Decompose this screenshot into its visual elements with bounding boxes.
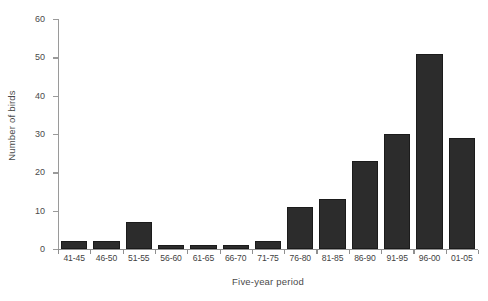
bar [255,241,281,249]
bar [449,138,475,249]
x-axis-tick-label: 51-55 [128,253,149,263]
y-axis-line [58,19,59,249]
x-axis-line [58,249,478,250]
bar [158,245,184,249]
x-axis-tick-labels: 41-4546-5051-5556-6061-6566-7071-7576-80… [58,253,478,267]
y-axis-title: Number of birds [0,0,22,250]
y-axis-tick-label: 50 [35,52,45,62]
bar [223,245,249,249]
x-axis-title: Five-year period [58,276,478,287]
y-axis-tick-label: 10 [35,206,45,216]
bar [319,199,345,249]
x-axis-tick-label: 41-45 [63,253,84,263]
x-axis-tick-label: 46-50 [96,253,117,263]
y-axis-tick-label: 60 [35,14,45,24]
bar [126,222,152,249]
y-axis-tick-mark [53,211,58,212]
bar [93,241,119,249]
x-axis-tick-label: 56-60 [160,253,181,263]
plot-area [58,19,478,249]
bar [287,207,313,249]
x-axis-tick-label: 66-70 [225,253,246,263]
bar [352,161,378,249]
y-axis-tick-label: 0 [40,244,45,254]
x-axis-tick-mark [478,250,479,254]
y-axis-tick-labels: 0102030405060 [22,0,48,260]
x-axis-tick-label: 71-75 [257,253,278,263]
y-axis-tick-mark [53,19,58,20]
x-axis-tick-label: 61-65 [193,253,214,263]
bar [61,241,87,249]
bar [190,245,216,249]
bar [384,134,410,249]
y-axis-tick-mark [53,57,58,58]
x-axis-tick-label: 86-90 [354,253,375,263]
x-axis-tick-label: 76-80 [290,253,311,263]
y-axis-tick-label: 30 [35,129,45,139]
y-axis-tick-label: 20 [35,167,45,177]
x-axis-tick-label: 91-95 [386,253,407,263]
y-axis-tick-mark [53,134,58,135]
x-axis-tick-label: 01-05 [451,253,472,263]
y-axis-tick-mark [53,96,58,97]
y-axis-tick-label: 40 [35,91,45,101]
x-axis-tick-label: 96-00 [419,253,440,263]
x-axis-tick-label: 81-85 [322,253,343,263]
y-axis-tick-mark [53,172,58,173]
bar-chart-figure: Number of birds 0102030405060 41-4546-50… [0,0,488,301]
y-axis-title-text: Number of birds [6,90,17,161]
bar [416,54,442,250]
